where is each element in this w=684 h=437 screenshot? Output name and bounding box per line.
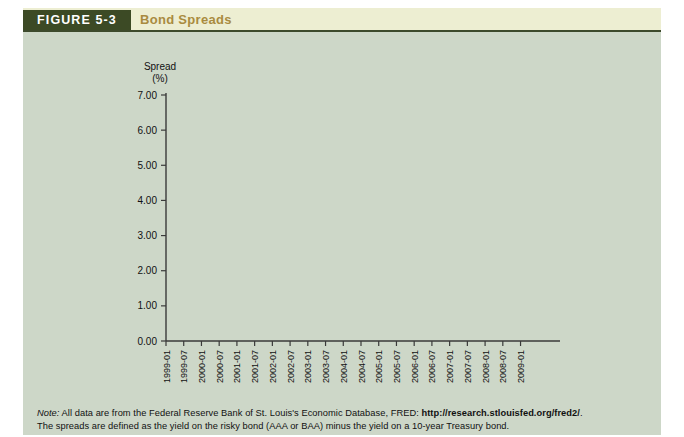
x-tick-label: 2005-01 [374,350,384,383]
x-tick-label: 2002-07 [286,350,296,383]
note-url-link[interactable]: http://research.stlouisfed.org/fred2/ [422,408,580,418]
bond-spreads-chart: 0.001.002.003.004.005.006.007.00Spread(%… [0,0,684,437]
x-tick-label: 2005-07 [392,350,402,383]
figure-root: FIGURE 5-3 Bond Spreads 0.001.002.003.00… [0,0,684,437]
x-tick-label: 2002-01 [268,350,278,383]
y-tick-label: 1.00 [138,300,158,311]
x-tick-label: 2000-01 [197,350,207,383]
y-tick-label: 2.00 [138,265,158,276]
note-label: Note: [37,408,59,418]
x-tick-label: 2003-01 [303,350,313,383]
y-tick-label: 4.00 [138,195,158,206]
x-tick-label: 2006-07 [427,350,437,383]
y-axis-title-line1: Spread [144,61,176,72]
x-tick-label: 2007-07 [463,350,473,383]
x-tick-label: 1999-07 [179,350,189,383]
note-box: Note: All data are from the Federal Rese… [23,405,661,435]
note-line-2: The spreads are defined as the yield on … [37,421,509,431]
y-tick-label: 3.00 [138,230,158,241]
x-tick-label: 2009-01 [516,350,526,383]
y-tick-label: 5.00 [138,160,158,171]
x-tick-label: 1999-01 [162,350,172,383]
y-tick-label: 7.00 [138,90,158,101]
x-tick-label: 2008-07 [498,350,508,383]
x-tick-label: 2007-01 [445,350,455,383]
note-line1-text: All data are from the Federal Reserve Ba… [62,408,419,418]
x-tick-label: 2001-01 [232,350,242,383]
x-tick-label: 2004-07 [357,350,367,383]
note-line-1: Note: All data are from the Federal Rese… [37,408,583,418]
y-tick-label: 0.00 [138,336,158,347]
x-tick-label: 2001-07 [250,350,260,383]
note-line1-period: . [580,408,583,418]
x-tick-label: 2003-07 [321,350,331,383]
x-tick-label: 2000-07 [215,350,225,383]
x-tick-label: 2006-01 [410,350,420,383]
y-axis-title-line2: (%) [152,73,168,84]
x-tick-label: 2008-01 [481,350,491,383]
y-tick-label: 6.00 [138,125,158,136]
x-tick-label: 2004-01 [339,350,349,383]
